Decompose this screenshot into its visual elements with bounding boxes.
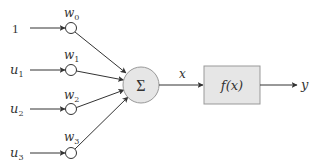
weight-node-0 [66, 23, 77, 34]
weight-label-w1: w1 [64, 48, 79, 64]
weight-node-1 [66, 65, 77, 76]
svg-text:w1: w1 [64, 48, 79, 64]
input-label-bias: 1 [12, 21, 19, 36]
svg-text:w3: w3 [64, 130, 79, 146]
input-label-u3: u3 [10, 145, 23, 162]
activation-label: f(x) [220, 78, 243, 93]
svg-text:u3: u3 [10, 145, 23, 162]
input-label-u2: u2 [10, 101, 23, 118]
svg-text:u1: u1 [10, 62, 23, 79]
weight-label-w2: w2 [64, 88, 79, 104]
connection-0 [75, 32, 126, 73]
connection-2 [77, 90, 125, 108]
weight-node-2 [66, 104, 77, 115]
output-label: y [300, 77, 309, 92]
sigma-symbol: Σ [136, 77, 145, 94]
sum-output-label: x [179, 67, 186, 81]
svg-text:w2: w2 [64, 88, 79, 104]
weight-label-w0: w0 [64, 6, 79, 22]
input-label-u1: u1 [10, 62, 23, 79]
svg-text:w0: w0 [64, 6, 79, 22]
weight-node-3 [66, 148, 77, 159]
connection-1 [77, 71, 124, 80]
neuron-diagram: 1 u1 u2 u3 w0 w1 w2 w3 Σ x f(x) y [0, 0, 320, 166]
svg-text:u2: u2 [10, 101, 23, 118]
weight-label-w3: w3 [64, 130, 79, 146]
